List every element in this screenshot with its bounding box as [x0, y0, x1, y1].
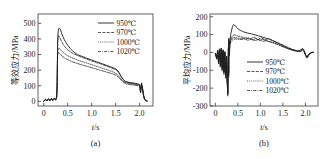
y-axis-title: 等效应力/MPa: [10, 35, 20, 85]
legend-label-1020℃: 1020℃: [266, 86, 289, 95]
legend-label-1020℃: 1020℃: [117, 47, 140, 56]
y-tick-label: -300: [193, 102, 208, 111]
panel-a: 00.51.01.52.00100200300400500t/s等效应力/MPa…: [0, 0, 165, 159]
y-tick-label: -100: [193, 66, 208, 75]
panel-b: 00.51.01.52.0-300-200-1000100200t/s平均应力/…: [165, 0, 330, 159]
y-tick-label: 200: [24, 66, 36, 75]
chart-b-svg: 00.51.01.52.0-300-200-1000100200t/s平均应力/…: [165, 0, 330, 159]
x-tick-label: 0.5: [63, 109, 73, 118]
chart-a-svg: 00.51.01.52.00100200300400500t/s等效应力/MPa…: [0, 0, 165, 159]
y-tick-label: 300: [24, 50, 36, 59]
y-axis-title: 平均应力/MPa: [182, 35, 192, 85]
legend-label-950℃: 950℃: [266, 58, 286, 67]
x-tick-label: 0.5: [233, 109, 243, 118]
x-tick-label: 1.5: [278, 109, 288, 118]
y-tick-label: 200: [196, 13, 208, 22]
y-tick-label: -200: [193, 84, 208, 93]
figure-container: 00.51.01.52.00100200300400500t/s等效应力/MPa…: [0, 0, 330, 159]
x-tick-label: 1.0: [87, 109, 97, 118]
x-axis-title: t/s: [260, 123, 268, 132]
y-tick-label: 100: [24, 82, 36, 91]
y-tick-label: 0: [204, 48, 208, 57]
legend-label-1000℃: 1000℃: [117, 38, 140, 47]
panel-caption: (a): [91, 138, 101, 148]
x-tick-label: 2.0: [300, 109, 310, 118]
x-tick-label: 0: [213, 109, 217, 118]
panel-b-canvas: 00.51.01.52.0-300-200-1000100200t/s平均应力/…: [165, 0, 330, 159]
x-tick-label: 0: [42, 109, 46, 118]
panel-a-canvas: 00.51.01.52.00100200300400500t/s等效应力/MPa…: [0, 0, 165, 159]
x-tick-label: 1.5: [111, 109, 121, 118]
series-line-950℃: [215, 25, 313, 94]
legend-label-950℃: 950℃: [117, 19, 137, 28]
series-line-1020℃: [44, 53, 148, 101]
x-tick-label: 2.0: [135, 109, 145, 118]
y-tick-label: 500: [24, 19, 36, 28]
legend-label-970℃: 970℃: [117, 28, 137, 37]
x-axis-title: t/s: [92, 123, 100, 132]
y-tick-label: 100: [196, 30, 208, 39]
x-tick-label: 1.0: [255, 109, 265, 118]
legend-label-970℃: 970℃: [266, 67, 286, 76]
y-tick-label: 0: [32, 97, 36, 106]
y-tick-label: 400: [24, 35, 36, 44]
panel-caption: (b): [259, 138, 269, 148]
legend-label-1000℃: 1000℃: [266, 77, 289, 86]
